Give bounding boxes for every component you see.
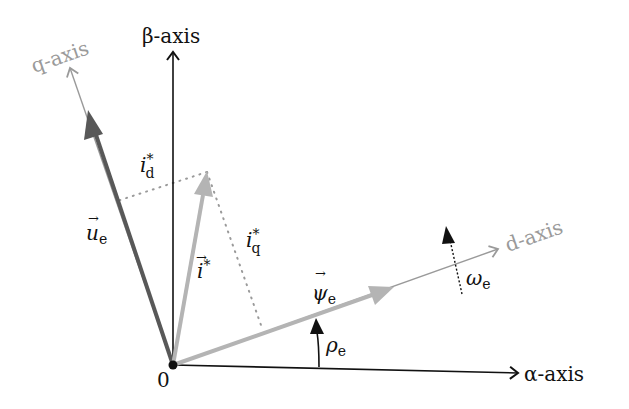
svg-text:→: → xyxy=(88,211,99,226)
omega-e-arrowhead xyxy=(442,226,455,244)
d-axis-label: d-axis xyxy=(502,215,566,257)
alpha-axis-line xyxy=(173,365,518,373)
i-ref-arrowhead xyxy=(194,171,213,197)
psi-e-label: ψe → xyxy=(312,266,336,307)
rho-e-label: ρe xyxy=(325,333,346,359)
svg-text:ρe: ρe xyxy=(325,333,346,359)
rho-e-angle-arc xyxy=(310,318,324,367)
beta-axis-label: β-axis xyxy=(142,24,200,48)
u-e-label: ue → xyxy=(86,211,107,247)
svg-text:→: → xyxy=(196,250,207,265)
alpha-axis-label: α-axis xyxy=(524,362,584,386)
origin-point xyxy=(169,361,178,370)
svg-text:ψe: ψe xyxy=(312,281,336,307)
psi-e-vector xyxy=(173,286,394,365)
origin-label: 0 xyxy=(157,368,170,392)
psi-e-arrowhead xyxy=(368,286,394,305)
i-ref-label: i* → xyxy=(196,250,210,283)
i-q-label: i*q xyxy=(246,226,260,256)
q-axis-label: q-axis xyxy=(28,36,92,78)
dq-vector-diagram: 0 α-axis β-axis d-axis q-axis ue → i* → … xyxy=(0,0,629,409)
i-d-projection-line xyxy=(114,172,207,202)
omega-e-rotation-arrow xyxy=(442,226,462,294)
rho-e-arrowhead xyxy=(310,318,324,334)
svg-text:ωe: ωe xyxy=(466,266,491,292)
svg-text:→: → xyxy=(315,266,326,281)
svg-text:i*d: i*d xyxy=(140,151,154,181)
svg-text:i*q: i*q xyxy=(246,226,260,256)
i-d-label: i*d xyxy=(140,151,154,181)
omega-e-label: ωe xyxy=(466,266,491,292)
